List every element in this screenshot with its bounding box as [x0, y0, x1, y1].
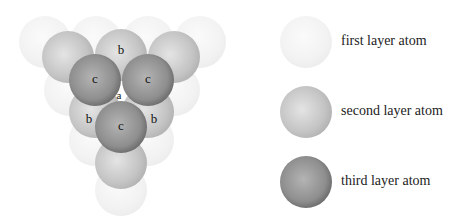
site-label-b: b: [151, 111, 158, 127]
legend-first-layer-label: first layer atom: [341, 33, 427, 49]
legend-first-layer-atom: [280, 16, 332, 68]
legend-second-layer-atom: [280, 86, 332, 138]
atom-packing-diagram: bbbccc a first layer atom second layer a…: [0, 0, 462, 223]
legend-third-layer-label: third layer atom: [341, 173, 430, 189]
site-label-c: c: [118, 118, 124, 134]
legend-second-layer-label: second layer atom: [341, 103, 443, 119]
site-label-a: a: [117, 89, 122, 101]
legend-third-layer-atom: [280, 156, 332, 208]
site-label-b: b: [118, 42, 125, 58]
site-label-c: c: [145, 71, 151, 87]
site-label-b: b: [86, 111, 93, 127]
site-label-c: c: [92, 71, 98, 87]
